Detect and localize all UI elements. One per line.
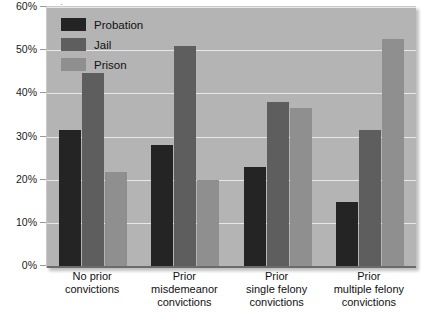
bar-probation-2 xyxy=(244,167,266,266)
cropped-title-sliver: · xyxy=(60,0,140,5)
y-axis-tick-label: 50% xyxy=(0,43,37,55)
legend-swatch-prison xyxy=(61,58,86,71)
y-axis-tick xyxy=(40,179,46,180)
category-label-line: multiple felony xyxy=(323,283,415,296)
x-axis-category-labels: No priorconvictionsPriormisdemeanorconvi… xyxy=(46,270,415,312)
y-axis-tick-label: 20% xyxy=(0,173,37,185)
legend-label-prison: Prison xyxy=(94,59,127,71)
bar-chart: · Probation Jail Prison 0%10%20%30%40%50… xyxy=(0,0,421,312)
bar-probation-0 xyxy=(59,130,81,266)
bar-prison-1 xyxy=(197,180,219,266)
bar-probation-3 xyxy=(336,202,358,266)
legend-item-jail: Jail xyxy=(61,35,143,54)
bar-jail-1 xyxy=(174,46,196,266)
plot-area: Probation Jail Prison xyxy=(46,6,416,268)
y-axis-tick-label: 0% xyxy=(0,259,37,271)
y-axis-tick-label: 30% xyxy=(0,130,37,142)
legend-swatch-jail xyxy=(61,38,86,51)
category-label-line: convictions xyxy=(46,283,138,296)
category-label-line: convictions xyxy=(138,296,230,309)
bar-jail-3 xyxy=(359,130,381,266)
category-label-line: Prior xyxy=(231,270,323,283)
bar-probation-1 xyxy=(151,145,173,266)
y-axis-tick xyxy=(40,136,46,137)
legend-label-probation: Probation xyxy=(94,19,143,31)
y-axis-tick xyxy=(40,222,46,223)
x-axis-category-label: Priorsingle felonyconvictions xyxy=(231,270,323,309)
y-axis-tick-label: 40% xyxy=(0,86,37,98)
category-label-line: No prior xyxy=(46,270,138,283)
bar-jail-0 xyxy=(82,73,104,266)
x-axis-line xyxy=(47,266,416,268)
category-label-line: Prior xyxy=(138,270,230,283)
category-label-line: misdemeanor xyxy=(138,283,230,296)
category-label-line: convictions xyxy=(323,296,415,309)
y-axis-tick-label: 10% xyxy=(0,216,37,228)
legend-swatch-probation xyxy=(61,18,86,31)
y-axis-tick xyxy=(40,265,46,266)
y-axis-tick xyxy=(40,6,46,7)
y-axis-tick xyxy=(40,92,46,93)
legend-label-jail: Jail xyxy=(94,39,111,51)
legend: Probation Jail Prison xyxy=(61,15,143,75)
x-axis-category-label: Priormultiple felonyconvictions xyxy=(323,270,415,309)
bar-jail-2 xyxy=(267,102,289,266)
x-axis-category-label: No priorconvictions xyxy=(46,270,138,296)
bar-prison-2 xyxy=(290,108,312,266)
bar-prison-3 xyxy=(382,39,404,266)
legend-item-prison: Prison xyxy=(61,55,143,74)
y-axis-tick-label: 60% xyxy=(0,0,37,12)
category-label-line: single felony xyxy=(231,283,323,296)
bar-prison-0 xyxy=(105,172,127,266)
y-axis-tick xyxy=(40,49,46,50)
category-label-line: Prior xyxy=(323,270,415,283)
x-axis-category-label: Priormisdemeanorconvictions xyxy=(138,270,230,309)
legend-item-probation: Probation xyxy=(61,15,143,34)
category-label-line: convictions xyxy=(231,296,323,309)
